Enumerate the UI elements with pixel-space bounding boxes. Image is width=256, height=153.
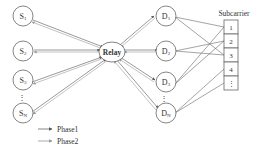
relay-node: Relay bbox=[99, 42, 125, 62]
source-node-1: S1 bbox=[13, 6, 33, 26]
source-node-n: SN bbox=[13, 103, 33, 123]
subcarrier-mapping-lines bbox=[175, 17, 224, 113]
source-node-3: S3 bbox=[13, 70, 33, 90]
destination-node-1: D1 bbox=[156, 6, 176, 26]
relay-subcarrier-diagram: S1 S2 S3 ⋮ SN Relay D1 D2 D3 ⋮ DN Subcar… bbox=[0, 0, 256, 153]
source-ellipsis: ⋮ bbox=[18, 93, 26, 102]
relay-destination-links bbox=[114, 16, 158, 110]
subcarrier-cell-2: 2 bbox=[229, 38, 233, 46]
svg-text:Relay: Relay bbox=[103, 48, 122, 57]
destination-node-2: D2 bbox=[156, 41, 176, 61]
destination-node-3: D3 bbox=[156, 72, 176, 92]
legend-phase2: Phase2 bbox=[57, 137, 78, 146]
subcarrier-cell-3: 3 bbox=[229, 52, 233, 60]
source-relay-links bbox=[32, 20, 108, 114]
source-node-2: S2 bbox=[13, 41, 33, 61]
subcarrier-cell-4: 4 bbox=[229, 66, 233, 74]
subcarrier-cell-1: 1 bbox=[229, 24, 233, 32]
destination-node-n: DN bbox=[156, 103, 176, 123]
subcarrier-cell-more: ⋮ bbox=[228, 80, 235, 88]
destination-ellipsis: ⋮ bbox=[160, 94, 168, 103]
legend-phase1: Phase1 bbox=[57, 125, 78, 134]
subcarrier-title: Subcarrier bbox=[218, 9, 250, 18]
legend: Phase1 Phase2 bbox=[38, 125, 78, 146]
